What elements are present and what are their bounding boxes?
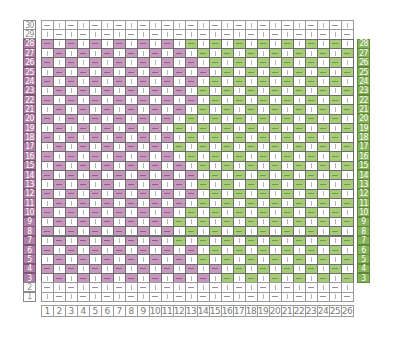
knit-bar-icon [287, 107, 288, 112]
purl-dash-icon [236, 137, 242, 138]
knit-bar-icon [131, 229, 132, 234]
knit-bar-icon [263, 88, 264, 93]
purl-dash-icon [116, 81, 122, 82]
purl-dash-icon [344, 128, 350, 129]
purl-dash-icon [272, 203, 278, 204]
knit-bar-icon [119, 201, 120, 206]
knit-bar-icon [335, 107, 336, 112]
purl-dash-icon [212, 231, 218, 232]
knit-bar-icon [227, 98, 228, 103]
purl-dash-icon [56, 278, 62, 279]
knit-bar-icon [167, 182, 168, 187]
purl-dash-icon [224, 90, 230, 91]
purl-dash-icon [260, 268, 266, 269]
purl-dash-icon [44, 62, 50, 63]
purl-dash-icon [320, 165, 326, 166]
purl-dash-icon [128, 53, 134, 54]
purl-dash-icon [104, 90, 110, 91]
knit-bar-icon [71, 276, 72, 281]
purl-dash-icon [152, 221, 158, 222]
purl-dash-icon [176, 165, 182, 166]
knit-bar-icon [155, 116, 156, 121]
knit-bar-icon [167, 238, 168, 243]
knit-bar-icon [155, 248, 156, 253]
purl-dash-icon [188, 118, 194, 119]
purl-dash-icon [248, 184, 254, 185]
purl-dash-icon [68, 100, 74, 101]
knit-bar-icon [227, 23, 228, 28]
knit-bar-icon [347, 79, 348, 84]
knit-bar-icon [119, 238, 120, 243]
knit-bar-icon [167, 51, 168, 56]
knit-bar-icon [275, 116, 276, 121]
knit-bar-icon [251, 135, 252, 140]
knit-bar-icon [323, 248, 324, 253]
knit-bar-icon [71, 51, 72, 56]
knit-bar-icon [143, 238, 144, 243]
knit-bar-icon [71, 219, 72, 224]
purl-dash-icon [284, 250, 290, 251]
purl-dash-icon [320, 221, 326, 222]
knit-bar-icon [131, 79, 132, 84]
knit-bar-icon [107, 98, 108, 103]
purl-dash-icon [248, 146, 254, 147]
purl-dash-icon [296, 165, 302, 166]
knit-bar-icon [239, 163, 240, 168]
knit-bar-icon [155, 285, 156, 290]
purl-dash-icon [200, 53, 206, 54]
knit-bar-icon [119, 257, 120, 262]
knit-bar-icon [191, 276, 192, 281]
knit-bar-icon [107, 229, 108, 234]
knit-bar-icon [347, 135, 348, 140]
purl-dash-icon [68, 212, 74, 213]
purl-dash-icon [296, 90, 302, 91]
purl-dash-icon [248, 278, 254, 279]
knit-bar-icon [311, 107, 312, 112]
purl-dash-icon [164, 175, 170, 176]
purl-dash-icon [200, 72, 206, 73]
knit-bar-icon [155, 173, 156, 178]
purl-dash-icon [272, 146, 278, 147]
knit-bar-icon [215, 126, 216, 131]
purl-dash-icon [320, 72, 326, 73]
column-label: 26 [341, 305, 354, 317]
knit-bar-icon [263, 70, 264, 75]
purl-dash-icon [44, 25, 50, 26]
knit-bar-icon [251, 266, 252, 271]
knit-bar-icon [179, 229, 180, 234]
knit-bar-icon [263, 257, 264, 262]
purl-dash-icon [332, 212, 338, 213]
purl-dash-icon [284, 100, 290, 101]
purl-dash-icon [164, 118, 170, 119]
knit-bar-icon [299, 191, 300, 196]
knit-bar-icon [239, 201, 240, 206]
knit-bar-icon [83, 210, 84, 215]
knit-bar-icon [215, 276, 216, 281]
purl-dash-icon [224, 128, 230, 129]
purl-dash-icon [188, 193, 194, 194]
purl-dash-icon [44, 268, 50, 269]
knit-bar-icon [131, 266, 132, 271]
knit-bar-icon [275, 154, 276, 159]
knit-bar-icon [203, 98, 204, 103]
knit-bar-icon [83, 266, 84, 271]
knit-bar-icon [167, 201, 168, 206]
knit-bar-icon [323, 41, 324, 46]
knit-bar-icon [143, 126, 144, 131]
purl-dash-icon [188, 43, 194, 44]
purl-dash-icon [200, 146, 206, 147]
purl-dash-icon [248, 53, 254, 54]
purl-dash-icon [224, 34, 230, 35]
knit-bar-icon [131, 41, 132, 46]
knit-bar-icon [227, 41, 228, 46]
purl-dash-icon [68, 25, 74, 26]
purl-dash-icon [116, 62, 122, 63]
knit-bar-icon [179, 60, 180, 65]
purl-dash-icon [92, 118, 98, 119]
knit-bar-icon [59, 173, 60, 178]
knit-bar-icon [119, 32, 120, 37]
knit-bar-icon [251, 116, 252, 121]
knit-bar-icon [71, 201, 72, 206]
purl-dash-icon [140, 287, 146, 288]
purl-dash-icon [152, 203, 158, 204]
